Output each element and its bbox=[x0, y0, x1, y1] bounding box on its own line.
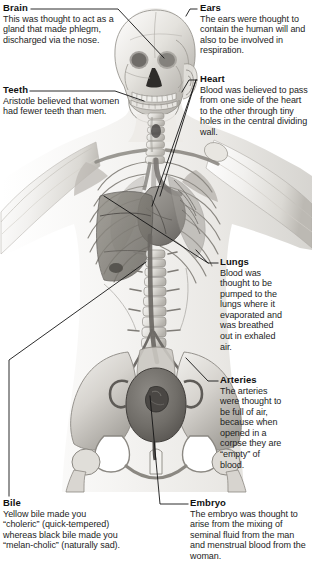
callout-brain-body: This was thought to act as a gland that … bbox=[3, 14, 125, 46]
callout-ears-body: The ears were thought to contain the hum… bbox=[200, 14, 310, 56]
callout-teeth: Teeth Aristotle believed that women had … bbox=[3, 84, 125, 117]
callout-embryo: Embryo The embryo was thought to arise f… bbox=[190, 497, 308, 561]
callout-embryo-body: The embryo was thought to arise from the… bbox=[190, 509, 308, 562]
callout-bile-heading: Bile bbox=[3, 497, 123, 508]
callout-lungs-body: Blood was thought to be pumped to the lu… bbox=[220, 268, 286, 353]
callout-lungs-heading: Lungs bbox=[220, 256, 286, 267]
callout-arteries-body: The arteries were thought to be full of … bbox=[220, 386, 286, 471]
callout-bile: Bile Yellow bile made you “choleric” (qu… bbox=[3, 497, 123, 551]
callout-arteries-heading: Arteries bbox=[220, 374, 286, 385]
callout-ears-heading: Ears bbox=[200, 2, 310, 13]
ear bbox=[183, 64, 197, 99]
callout-teeth-heading: Teeth bbox=[3, 84, 125, 95]
callout-teeth-body: Aristotle believed that women had fewer … bbox=[3, 96, 125, 117]
callout-heart: Heart Blood was believed to pass from on… bbox=[200, 73, 310, 137]
callout-embryo-heading: Embryo bbox=[190, 497, 308, 508]
callout-bile-body: Yellow bile made you “choleric” (quick-t… bbox=[3, 509, 123, 551]
callout-brain: Brain This was thought to act as a gland… bbox=[3, 2, 125, 45]
callout-heart-heading: Heart bbox=[200, 73, 310, 84]
callout-heart-body: Blood was believed to pass from one side… bbox=[200, 85, 310, 138]
callout-brain-heading: Brain bbox=[3, 2, 125, 13]
callout-ears: Ears The ears were thought to contain th… bbox=[200, 2, 310, 56]
callout-lungs: Lungs Blood was thought to be pumped to … bbox=[220, 256, 286, 352]
callout-arteries: Arteries The arteries were thought to be… bbox=[220, 374, 286, 470]
skull bbox=[115, 10, 197, 123]
